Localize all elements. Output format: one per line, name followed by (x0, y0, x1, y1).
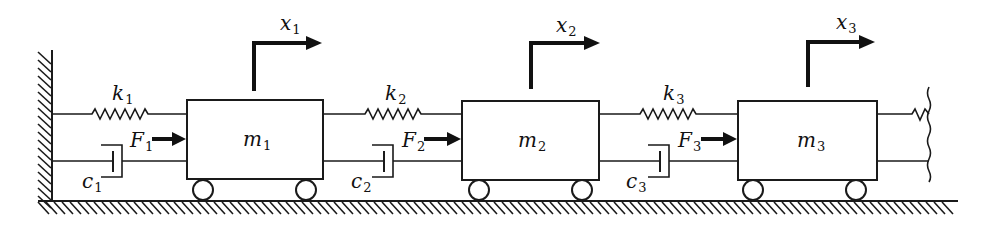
spring-mass-damper-diagram: m1 m2 m3 F1 F2 F3 x1 x2 (0, 0, 987, 234)
damper-label-c1: c1 (82, 169, 102, 195)
spring-label-k3: k3 (663, 81, 684, 107)
displacement-arrow-x2: x2 (531, 13, 600, 89)
wheel (743, 180, 763, 200)
damper-label-c3: c3 (626, 169, 646, 195)
fixed-wall (38, 50, 52, 208)
ground (38, 201, 958, 214)
force-arrow-f1: F1 (129, 128, 186, 154)
damper-c3 (599, 145, 738, 177)
damper-c1 (52, 145, 187, 177)
displacement-arrow-x1: x1 (254, 11, 322, 91)
wheel (846, 180, 866, 200)
spring-partial-right (877, 109, 929, 120)
mass-m3: m3 (738, 101, 877, 200)
spring-label-k2: k2 (385, 81, 406, 107)
mass-m2: m2 (462, 101, 599, 200)
spring-k1 (52, 109, 187, 119)
force-label-f3: F3 (677, 128, 701, 154)
damper-c2 (323, 145, 462, 177)
displacement-label-x1: x1 (280, 11, 301, 37)
force-label-f1: F1 (129, 128, 153, 154)
break-line (928, 87, 931, 182)
force-label-f2: F2 (401, 128, 425, 154)
displacement-arrow-x3: x3 (808, 10, 875, 87)
wheel (193, 180, 213, 200)
mass-m1: m1 (187, 100, 323, 200)
wheel (572, 180, 592, 200)
spring-label-k1: k1 (112, 81, 133, 107)
force-arrow-f3: F3 (677, 128, 737, 154)
spring-k3 (599, 109, 738, 119)
displacement-label-x3: x3 (836, 10, 857, 36)
displacement-label-x2: x2 (556, 13, 577, 39)
wheel (296, 180, 316, 200)
force-arrow-f2: F2 (401, 128, 461, 154)
damper-label-c2: c2 (351, 169, 371, 195)
spring-k2 (323, 109, 462, 119)
wheel (469, 180, 489, 200)
